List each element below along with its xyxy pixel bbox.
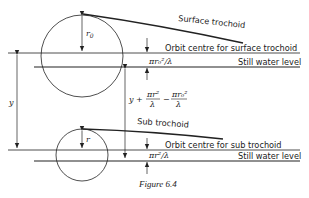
orbit-centre-sub-label: Orbit centre for sub trochoid: [165, 140, 282, 150]
mid-frac2-den: λ: [175, 100, 181, 109]
offset-top-label: πr₀²/λ: [148, 57, 172, 66]
y-label: y: [8, 98, 14, 107]
still-water-top-label: Still water level: [238, 57, 301, 67]
still-water-bottom-label: Still water level: [238, 151, 301, 161]
surface-trochoid-label: Surface trochoid: [178, 13, 246, 30]
orbit-centre-surface-label: Orbit centre for surface trochoid: [165, 43, 297, 53]
mid-minus: −: [163, 95, 170, 104]
trochoid-diagram: Surface trochoid Orbit centre for surfac…: [0, 0, 309, 198]
figure-caption: Figure 6.4: [138, 179, 177, 189]
sub-trochoid-curve: [83, 129, 223, 139]
offset-bottom-label: πr²/λ: [148, 151, 169, 160]
sub-trochoid-label: Sub trochoid: [137, 116, 189, 130]
r0-label: r0: [86, 29, 94, 39]
mid-frac1-den: λ: [149, 100, 155, 109]
mid-frac2-num: πr₀²: [171, 90, 188, 99]
mid-frac1-num: πr²: [146, 90, 159, 99]
mid-y-plus: y +: [128, 95, 143, 104]
r-label: r: [86, 135, 91, 144]
